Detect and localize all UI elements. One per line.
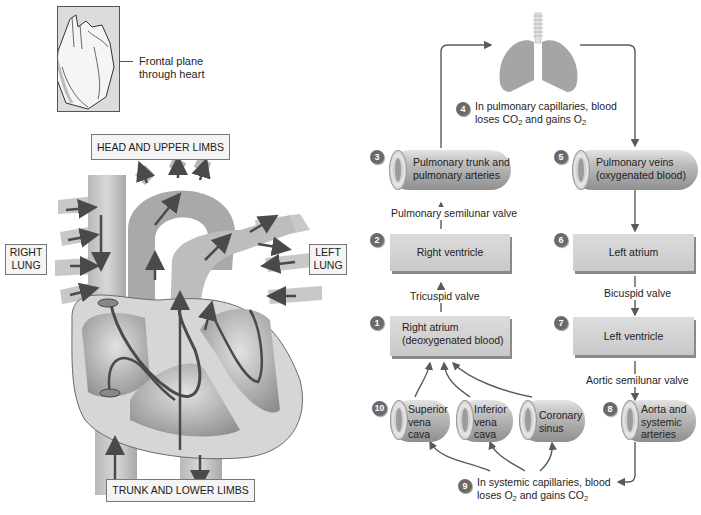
- tube-end: [456, 400, 474, 440]
- tube-label-line: Aorta and: [641, 403, 687, 416]
- step-text-line: loses O2 and gains CO2: [477, 489, 611, 505]
- step-text-line: loses CO2 and gains O2: [475, 113, 617, 129]
- tube-label: Pulmonary trunk and pulmonary arteries: [413, 156, 510, 181]
- tube-label: Aorta and systemic arteries: [641, 403, 687, 441]
- bicuspid-valve-label: Bicuspid valve: [604, 287, 671, 300]
- step-8-badge: 8: [603, 402, 617, 416]
- label-right-lung: RIGHT LUNG: [5, 244, 47, 275]
- tube-end: [390, 400, 408, 440]
- tube-label-line: sinus: [539, 422, 582, 435]
- box-label: Right atrium (deoxygenated blood): [402, 321, 510, 347]
- tube-label-line: Pulmonary trunk and: [413, 156, 510, 169]
- step-8-aorta-tube: Aorta and systemic arteries: [621, 400, 696, 442]
- tricuspid-valve-label: Tricuspid valve: [410, 290, 480, 303]
- step-6-left-atrium-box: Left atrium: [573, 234, 694, 271]
- step-5-badge: 5: [554, 150, 568, 164]
- box-label-line: Right atrium: [402, 321, 510, 334]
- label-trunk-lower-limbs: TRUNK AND LOWER LIMBS: [106, 479, 255, 502]
- step-4-text: In pulmonary capillaries, blood loses CO…: [475, 100, 617, 129]
- step-10-badge: 10: [372, 401, 387, 416]
- tube-label-line: Coronary: [539, 409, 582, 422]
- label-text: TRUNK AND LOWER LIMBS: [112, 484, 249, 496]
- step-9-badge: 9: [458, 479, 472, 493]
- label-text: HEAD AND UPPER LIMBS: [97, 141, 224, 153]
- tube-label: Superior vena cava: [408, 403, 448, 441]
- tube-label-line: Inferior: [474, 403, 507, 416]
- tube-label-line: pulmonary arteries: [413, 169, 510, 182]
- label-text: LUNG: [310, 259, 346, 272]
- text-part: and gains CO: [517, 489, 584, 501]
- tube-label-line: cava: [408, 428, 448, 441]
- tube-label-line: (oxygenated blood): [596, 169, 686, 182]
- inferior-vena-cava-tube: Inferior vena cava: [456, 400, 513, 442]
- box-label: Left atrium: [573, 246, 694, 259]
- box-label: Left ventricle: [573, 330, 694, 343]
- step-9-text: In systemic capillaries, blood loses O2 …: [477, 476, 611, 505]
- label-head-upper-limbs: HEAD AND UPPER LIMBS: [91, 134, 230, 160]
- label-text: LUNG: [6, 259, 46, 272]
- step-6-badge: 6: [554, 233, 568, 247]
- step-7-badge: 7: [554, 316, 568, 330]
- text-part: and gains O: [522, 113, 582, 125]
- tube-end: [621, 400, 639, 440]
- coronary-sinus-tube: Coronary sinus: [519, 400, 585, 442]
- lungs-icon: [499, 13, 577, 92]
- tube-label-line: vena: [474, 416, 507, 429]
- aortic-semilunar-valve-label: Aortic semilunar valve: [586, 374, 689, 387]
- box-label-line: (deoxygenated blood): [402, 334, 510, 347]
- tube-label-line: cava: [474, 428, 507, 441]
- heart-cross-section: [0, 0, 360, 515]
- tube-end: [572, 150, 590, 190]
- step-5-pulmonary-veins-tube: Pulmonary veins (oxygenated blood): [572, 150, 698, 190]
- step-4-badge: 4: [456, 102, 470, 116]
- step-7-left-ventricle-box: Left ventricle: [573, 317, 694, 355]
- subscript: 2: [584, 494, 588, 503]
- step-3-pulmonary-trunk-tube: Pulmonary trunk and pulmonary arteries: [389, 150, 511, 190]
- box-label: Right ventricle: [390, 246, 510, 259]
- step-text-line: In systemic capillaries, blood: [477, 476, 611, 489]
- step-3-badge: 3: [370, 150, 384, 164]
- step-text-line: In pulmonary capillaries, blood: [475, 100, 617, 113]
- step-2-right-ventricle-box: Right ventricle: [390, 234, 510, 271]
- tube-label: Inferior vena cava: [474, 403, 507, 441]
- label-text: RIGHT: [6, 246, 46, 259]
- tube-end: [519, 400, 537, 440]
- pulmonary-semilunar-valve-label: Pulmonary semilunar valve: [391, 207, 517, 220]
- step-1-right-atrium-box: Right atrium (deoxygenated blood): [390, 316, 510, 356]
- tube-label-line: systemic: [641, 416, 687, 429]
- tube-label-line: arteries: [641, 428, 687, 441]
- text-part: loses CO: [475, 113, 518, 125]
- tube-label: Pulmonary veins (oxygenated blood): [596, 156, 686, 181]
- subscript: 2: [582, 118, 586, 127]
- tube-label-line: Superior: [408, 403, 448, 416]
- tube-label-line: vena: [408, 416, 448, 429]
- step-1-badge: 1: [370, 316, 384, 330]
- superior-vena-cava-tube: Superior vena cava: [390, 400, 450, 442]
- label-text: LEFT: [310, 246, 346, 259]
- tube-label-line: Pulmonary veins: [596, 156, 686, 169]
- step-2-badge: 2: [370, 233, 384, 247]
- tube-end: [389, 150, 407, 190]
- tube-label: Coronary sinus: [539, 409, 582, 434]
- text-part: loses O: [477, 489, 513, 501]
- label-left-lung: LEFT LUNG: [309, 244, 347, 275]
